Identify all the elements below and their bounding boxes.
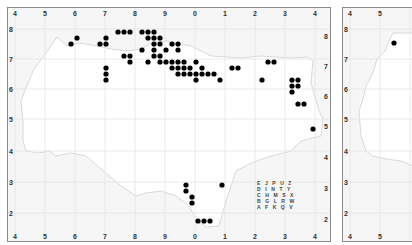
record-dot — [181, 59, 186, 64]
x-tick-bottom: 2 — [253, 233, 257, 240]
record-dot — [201, 218, 206, 223]
record-dot — [175, 65, 180, 70]
y-tick-left: 3 — [9, 179, 13, 186]
record-dot — [183, 182, 188, 187]
record-dot — [151, 47, 156, 52]
x-tick-top: 3 — [283, 10, 287, 17]
record-dot — [175, 59, 180, 64]
x-tick-top: 4 — [13, 10, 17, 17]
y-tick-right: 4 — [324, 154, 328, 161]
second-map-panel: 4 5 4 5 8 7 6 5 4 3 2 — [342, 7, 412, 242]
x-tick-top: 7 — [103, 10, 107, 17]
record-dot — [103, 77, 108, 82]
record-dot — [103, 65, 108, 70]
y-tick-right: 2 — [324, 216, 328, 223]
y-tick-left: 6 — [344, 86, 348, 93]
record-dot — [175, 47, 180, 52]
record-dot — [193, 77, 198, 82]
x-tick-top: 9 — [163, 10, 167, 17]
record-dot — [229, 65, 234, 70]
record-dot — [259, 77, 264, 82]
record-dot — [169, 65, 174, 70]
record-dot — [68, 41, 73, 46]
record-dot — [157, 53, 162, 58]
record-dot — [181, 65, 186, 70]
x-tick-bottom: 1 — [223, 233, 227, 240]
y-tick-right: 3 — [324, 185, 328, 192]
record-dot — [103, 35, 108, 40]
record-dot — [139, 47, 144, 52]
record-dot — [271, 59, 276, 64]
x-tick-bottom: 5 — [378, 233, 382, 240]
record-dot — [183, 188, 188, 193]
x-tick-top: 1 — [223, 10, 227, 17]
record-dot — [295, 101, 300, 106]
record-dot — [195, 218, 200, 223]
second-map-canvas — [343, 8, 412, 242]
record-dot — [181, 71, 186, 76]
record-dot — [115, 29, 120, 34]
record-dot — [151, 41, 156, 46]
y-tick-left: 2 — [9, 210, 13, 217]
record-dot — [207, 218, 212, 223]
record-dot — [217, 77, 222, 82]
record-dot — [175, 41, 180, 46]
record-dot — [289, 83, 294, 88]
record-dot — [199, 65, 204, 70]
y-tick-left: 4 — [9, 148, 13, 155]
y-tick-left: 7 — [9, 56, 13, 63]
record-dot — [235, 65, 240, 70]
x-tick-top: 2 — [253, 10, 257, 17]
record-dot — [151, 35, 156, 40]
record-dot — [121, 53, 126, 58]
record-dot — [145, 59, 150, 64]
x-tick-bottom: 5 — [43, 233, 47, 240]
record-dot — [169, 59, 174, 64]
record-dot — [163, 47, 168, 52]
y-tick-right: 7 — [324, 63, 328, 70]
x-tick-bottom: 9 — [163, 233, 167, 240]
record-dot — [97, 41, 102, 46]
x-tick-top: 4 — [348, 10, 352, 17]
x-tick-bottom: 4 — [348, 233, 352, 240]
record-dot — [139, 29, 144, 34]
x-tick-bottom: 4 — [313, 233, 317, 240]
tetrad-key-row: A F K Q V — [257, 204, 296, 210]
y-tick-left: 7 — [344, 56, 348, 63]
x-tick-bottom: 0 — [193, 233, 197, 240]
y-tick-left: 2 — [344, 210, 348, 217]
record-dot — [189, 194, 194, 199]
x-tick-bottom: 6 — [73, 233, 77, 240]
record-dot — [103, 71, 108, 76]
record-dot — [127, 59, 132, 64]
record-dot — [289, 89, 294, 94]
record-dot — [391, 40, 396, 45]
y-tick-left: 4 — [344, 148, 348, 155]
y-tick-left: 5 — [9, 116, 13, 123]
record-dot — [219, 182, 224, 187]
record-dot — [289, 77, 294, 82]
record-dot — [205, 71, 210, 76]
record-dot — [187, 65, 192, 70]
record-dot — [151, 29, 156, 34]
y-tick-left: 5 — [344, 116, 348, 123]
record-dot — [187, 71, 192, 76]
x-tick-top: 5 — [43, 10, 47, 17]
x-tick-top: 6 — [73, 10, 77, 17]
record-dot — [193, 71, 198, 76]
record-dot — [301, 101, 306, 106]
record-dot — [199, 71, 204, 76]
record-dot — [169, 41, 174, 46]
x-tick-top: 8 — [133, 10, 137, 17]
x-tick-top: 4 — [313, 10, 317, 17]
x-tick-bottom: 3 — [283, 233, 287, 240]
x-tick-top: 5 — [378, 10, 382, 17]
y-tick-left: 6 — [9, 86, 13, 93]
record-dot — [295, 77, 300, 82]
record-dot — [175, 71, 180, 76]
record-dots-2 — [391, 40, 396, 45]
record-dot — [145, 35, 150, 40]
record-dot — [157, 35, 162, 40]
record-dot — [127, 53, 132, 58]
record-dot — [310, 126, 315, 131]
